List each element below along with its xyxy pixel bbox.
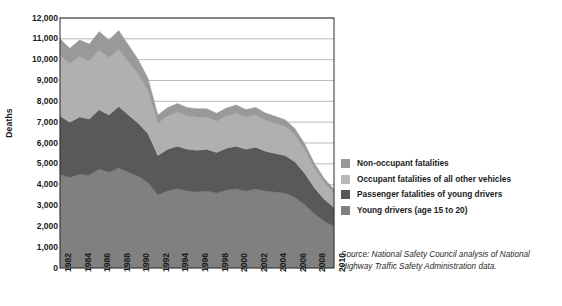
- legend-swatch-icon: [341, 159, 350, 168]
- chart-legend: Non-occupant fatalitiesOccupant fataliti…: [341, 158, 562, 220]
- legend-item-label: Non-occupant fatalities: [357, 159, 449, 168]
- x-tick-label: 2008: [318, 253, 327, 272]
- legend-item-label: Passenger fatalities of young drivers: [357, 190, 502, 199]
- x-tick-label: 1996: [201, 253, 210, 272]
- x-tick-label: 1984: [84, 253, 93, 272]
- legend-item: Non-occupant fatalities: [341, 158, 562, 169]
- x-tick-label: 2002: [260, 253, 269, 272]
- x-tick-label: 1982: [64, 253, 73, 272]
- legend-swatch-icon: [341, 206, 350, 215]
- legend-item: Occupant fatalities of all other vehicle…: [341, 174, 562, 185]
- legend-item: Passenger fatalities of young drivers: [341, 189, 562, 200]
- x-tick-label: 2000: [240, 253, 249, 272]
- x-tick-label: 2004: [279, 253, 288, 272]
- x-tick-label: 1994: [181, 253, 190, 272]
- x-tick-label: 1990: [142, 253, 151, 272]
- legend-swatch-icon: [341, 175, 350, 184]
- figure-root: Deaths 12,00011,00010,0009,0008,0007,000…: [0, 0, 562, 306]
- x-tick-label: 2006: [299, 253, 308, 272]
- stacked-area-chart: Deaths 12,00011,00010,0009,0008,0007,000…: [0, 0, 340, 306]
- x-tick-label: 1988: [123, 253, 132, 272]
- x-tick-label: 1986: [103, 253, 112, 272]
- x-tick-label: 1992: [162, 253, 171, 272]
- source-note: Source: National Safety Council analysis…: [341, 249, 556, 272]
- x-tick-label: 1998: [221, 253, 230, 272]
- legend-item-label: Young drivers (age 15 to 20): [357, 206, 468, 215]
- legend-item-label: Occupant fatalities of all other vehicle…: [357, 175, 511, 184]
- legend-item: Young drivers (age 15 to 20): [341, 205, 562, 216]
- legend-swatch-icon: [341, 190, 350, 199]
- x-axis-tick-labels: 1982198419861988199019921994199619982000…: [0, 0, 340, 306]
